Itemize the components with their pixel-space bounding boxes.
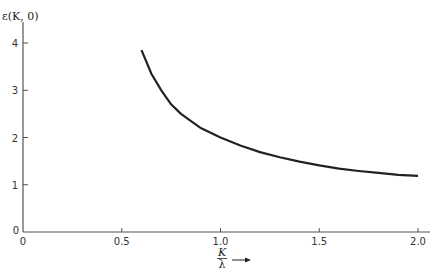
x-tick-label: 1.5	[311, 236, 327, 247]
y-axis-label: ε(K, 0)	[2, 10, 39, 23]
y-tick-label: 2	[12, 133, 18, 144]
chart: 00.51.01.52.001234ε(K, 0)Kλ	[0, 0, 444, 278]
y-tick-label: 1	[12, 180, 18, 191]
data-curve	[142, 50, 419, 176]
chart-svg: 00.51.01.52.001234ε(K, 0)Kλ	[0, 0, 444, 278]
y-tick-label: 3	[12, 85, 18, 96]
x-tick-label: 2.0	[410, 236, 426, 247]
axes	[23, 22, 430, 232]
x-label-denominator: λ	[219, 258, 226, 271]
y-tick-label: 4	[12, 38, 18, 49]
x-tick-label: 0	[20, 236, 26, 247]
x-tick-label: 0.5	[114, 236, 130, 247]
y-tick-label: 0	[13, 225, 19, 236]
